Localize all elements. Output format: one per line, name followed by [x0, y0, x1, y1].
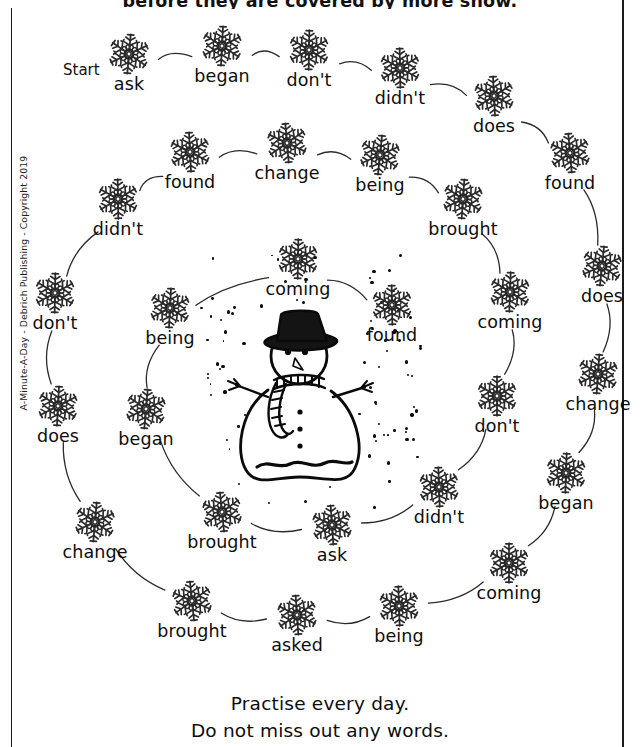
connector-line [505, 330, 514, 374]
snow-dot [277, 258, 279, 260]
snowflake-icon [413, 461, 465, 513]
footer-line-1: Practise every day. [0, 690, 640, 717]
start-label: Start [63, 61, 100, 79]
spelling-word: does [581, 286, 623, 306]
spelling-word: being [145, 328, 194, 348]
snow-dot [419, 347, 422, 350]
snow-dot [373, 506, 376, 509]
snowflake-icon [374, 42, 426, 94]
snow-dot [219, 368, 221, 370]
spelling-word: brought [428, 219, 497, 239]
snow-dot [238, 483, 240, 485]
spelling-word: asked [271, 635, 323, 655]
snow-dot [405, 438, 409, 442]
connector-line [340, 62, 372, 71]
snow-dot [369, 386, 373, 390]
spelling-word: being [374, 626, 423, 646]
top-instruction-text: before they are covered by more snow. [0, 0, 640, 9]
snow-dot [393, 429, 395, 431]
snow-dot [313, 256, 317, 260]
snow-dot [207, 373, 209, 375]
snowflake-icon [483, 537, 535, 589]
spelling-word: change [565, 394, 630, 414]
snow-dot [226, 439, 228, 441]
snow-dot [260, 304, 264, 308]
snow-dot [380, 301, 382, 303]
snow-dot [223, 390, 227, 394]
spelling-word: ask [317, 545, 347, 565]
connector-line [579, 411, 595, 453]
snowflake-icon [196, 20, 248, 72]
spelling-word: brought [157, 621, 226, 641]
snowflake-icon [576, 240, 628, 292]
spelling-word: coming [265, 279, 330, 299]
spelling-word: didn't [414, 507, 464, 527]
connector-line [431, 84, 467, 96]
snow-dot [271, 255, 273, 257]
snow-dot [304, 500, 308, 504]
connector-line [428, 582, 483, 603]
snow-dot [200, 307, 203, 310]
connector-line [482, 234, 500, 273]
snow-dot [416, 456, 419, 459]
spelling-word: does [473, 116, 515, 136]
page-border-right [622, 0, 624, 747]
connector-line [146, 345, 159, 388]
copyright-notice: A-Minute-A-Day - Debrich Publishing - Co… [18, 181, 29, 411]
snowflake-icon [164, 126, 216, 178]
snow-dot [386, 350, 388, 352]
spelling-word: began [538, 493, 593, 513]
spelling-word: found [367, 325, 418, 345]
connector-line [161, 441, 200, 496]
snow-dot [227, 310, 231, 314]
connector-line [158, 53, 191, 59]
snow-dot [372, 270, 376, 274]
connector-line [522, 122, 549, 143]
page-border-left [11, 8, 12, 747]
connector-line [219, 151, 256, 158]
snowflake-icon [484, 266, 536, 318]
spelling-word: being [355, 175, 404, 195]
snow-dot [388, 269, 391, 272]
snowflake-icon [261, 117, 313, 169]
snowflake-icon [544, 127, 596, 179]
snow-dot [223, 340, 225, 342]
snowflake-icon [468, 70, 520, 122]
snow-dot [405, 431, 407, 433]
connector-line [46, 331, 51, 384]
snow-dot [370, 281, 373, 284]
snowflake-icon [32, 380, 84, 432]
spelling-word: coming [477, 312, 542, 332]
snow-dot [210, 394, 212, 396]
snow-dot [419, 345, 422, 348]
snowflake-icon [540, 447, 592, 499]
snowflake-icon [166, 575, 218, 627]
spelling-word: found [165, 172, 216, 192]
snow-dot [329, 486, 331, 488]
snow-dot [392, 290, 394, 292]
snow-dot [231, 312, 234, 315]
snowflake-icon [471, 370, 523, 422]
spelling-word: does [37, 426, 79, 446]
connector-line [196, 278, 269, 306]
footer-instructions: Practise every day. Do not miss out any … [0, 690, 640, 744]
snow-dot [375, 440, 377, 442]
snow-dot [378, 366, 380, 368]
connector-line [221, 613, 266, 621]
snow-dot [411, 375, 413, 377]
snowflake-icon [144, 282, 196, 334]
snow-dot [207, 377, 209, 379]
snow-dot [368, 454, 371, 457]
snow-dot [405, 427, 408, 430]
connector-line [584, 190, 598, 245]
snowflake-icon [373, 580, 425, 632]
snow-dot [212, 257, 215, 260]
snow-dot [363, 361, 366, 364]
connector-line [603, 304, 610, 352]
snowflake-icon [437, 173, 489, 225]
snow-dot [415, 409, 419, 413]
spelling-word: change [62, 542, 127, 562]
snow-dot [268, 502, 270, 504]
snowflake-icon [272, 233, 324, 285]
spelling-word: don't [286, 70, 331, 90]
